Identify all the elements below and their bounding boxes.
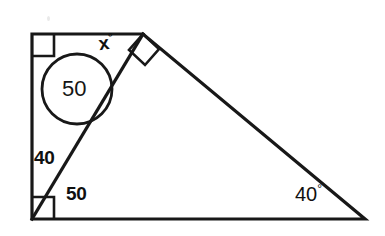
- circle-value-label: 50: [62, 78, 86, 100]
- angle-right-degree-symbol: °: [317, 182, 322, 196]
- side-left-label: 40: [34, 148, 55, 167]
- scan-artifact-speck: [47, 16, 50, 21]
- right-angle-marker-top-left: [32, 34, 54, 56]
- angle-right-text: 40: [295, 183, 317, 205]
- side-lower-label: 50: [66, 184, 87, 203]
- cevian-segment: [32, 34, 143, 219]
- angle-right-label: 40°: [295, 183, 322, 204]
- angle-x-label: x°: [97, 31, 115, 53]
- geometry-canvas: [0, 0, 385, 236]
- geometry-figure: 50 x° 40 50 40°: [0, 0, 385, 236]
